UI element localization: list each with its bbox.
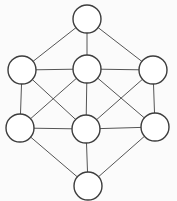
graph-node-lower-center [72,115,100,143]
graph-canvas [0,0,177,201]
graph-diagram [0,0,177,201]
graph-node-mid-center [73,55,101,83]
graph-node-mid-left [8,56,36,84]
graph-node-mid-right [139,56,167,84]
graph-node-lower-right [141,113,169,141]
graph-node-top [73,5,101,33]
graph-node-bottom [74,172,102,200]
graph-node-lower-left [6,114,34,142]
